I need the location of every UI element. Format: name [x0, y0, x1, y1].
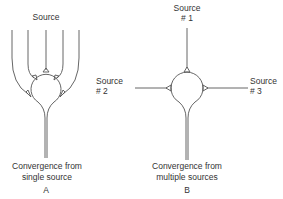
panel-b-caption-line1: Convergence from	[144, 161, 230, 171]
panel-b-neuron	[135, 28, 248, 160]
panel-a-caption-line1: Convergence from	[4, 161, 90, 171]
panel-b-source-3-number: # 3	[250, 86, 283, 96]
panel-a-caption-line2: single source	[4, 172, 90, 182]
panel-a-cell-body	[31, 74, 61, 158]
panel-b-letter: B	[177, 185, 197, 195]
panel-b-source-1-number: # 1	[167, 13, 207, 23]
panel-a-axon-4	[57, 30, 63, 78]
panel-a-neuron	[12, 30, 79, 158]
panel-b-source-2-label: Source	[96, 76, 130, 86]
panel-a-axon-1	[12, 30, 28, 94]
panel-a-axon-5	[63, 30, 79, 94]
panel-b-cell-body	[171, 72, 203, 160]
panel-b-synapse-1	[184, 67, 190, 72]
panel-a-source-label: Source	[26, 12, 66, 22]
panel-b-source-2-number: # 2	[96, 86, 130, 96]
panel-b-synapse-3	[203, 85, 208, 91]
panel-b-synapse-2	[166, 85, 171, 91]
panel-a-letter: A	[36, 185, 56, 195]
panel-b-caption-line2: multiple sources	[144, 172, 230, 182]
panel-b-source-3-label: Source	[250, 76, 283, 86]
panel-a-axon-2	[28, 30, 34, 78]
panel-b-source-1-label: Source	[167, 3, 207, 13]
